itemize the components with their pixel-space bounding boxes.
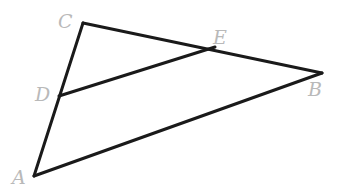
- vertex-label-e: E: [213, 28, 227, 47]
- segment-ab: [34, 73, 322, 176]
- segment-cb: [83, 23, 322, 73]
- geometry-figure: A B C D E: [0, 0, 347, 195]
- vertex-label-b: B: [308, 80, 322, 99]
- segment-de: [59, 47, 215, 96]
- vertex-label-d: D: [35, 85, 51, 104]
- segment-group: [34, 23, 322, 176]
- vertex-label-c: C: [58, 12, 73, 31]
- figure-canvas: [0, 0, 347, 195]
- vertex-label-a: A: [12, 168, 26, 187]
